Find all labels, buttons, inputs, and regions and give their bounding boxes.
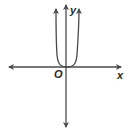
origin-label: O bbox=[54, 68, 63, 80]
graph: y x O bbox=[0, 0, 131, 132]
curve-right-branch bbox=[67, 9, 79, 67]
y-axis-label: y bbox=[69, 4, 77, 16]
x-axis-label: x bbox=[116, 69, 124, 81]
